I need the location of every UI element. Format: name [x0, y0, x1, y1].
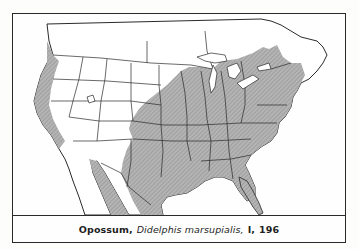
caption-page: 196: [259, 224, 279, 235]
figure-caption: Opossum, Didelphis marsupialis, I, 196: [13, 216, 345, 243]
caption-scientific-name: Didelphis marsupialis,: [137, 224, 244, 235]
map-figure-frame: Opossum, Didelphis marsupialis, I, 196: [12, 13, 346, 243]
caption-volume: I,: [248, 224, 255, 235]
range-map: [13, 14, 345, 216]
caption-common-name: Opossum,: [79, 224, 133, 235]
north-america-map: [13, 14, 344, 215]
